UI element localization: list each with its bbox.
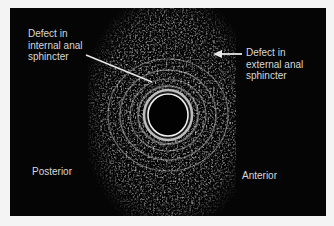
label-anterior: Anterior [242,170,277,182]
label-posterior: Posterior [32,166,72,178]
ultrasound-panel: Defect in internal anal sphincter Defect… [10,8,326,216]
external-defect-arrow-icon [10,8,326,216]
